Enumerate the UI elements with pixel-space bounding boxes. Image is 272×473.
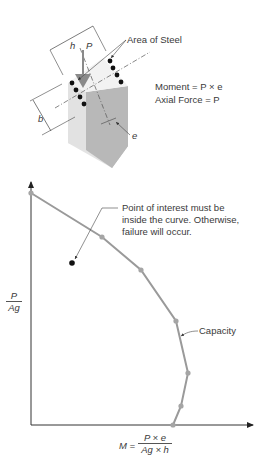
y-axis-label: P Ag (6, 290, 22, 314)
capacity-label: Capacity (199, 325, 236, 337)
x-axis-label: P × e Ag × h (138, 432, 172, 456)
point-annotation-line-3: failure will occur. (122, 226, 192, 238)
dim-h-label: h (70, 40, 75, 52)
area-of-steel-label: Area of Steel (127, 34, 182, 46)
axial-force-equation: Axial Force = P (155, 94, 220, 106)
load-p-label: P (86, 40, 92, 52)
dim-b-label: b (38, 113, 43, 125)
eccentricity-label: e (132, 130, 137, 142)
moment-equation: Moment = P × e (155, 81, 222, 93)
point-annotation-line-2: inside the curve. Otherwise, (122, 214, 239, 226)
capacity-leader (181, 331, 198, 336)
point-of-interest (69, 260, 75, 266)
point-annotation-line-1: Point of interest must be (122, 202, 224, 214)
x-axis-label-prefix: M = (119, 440, 135, 452)
